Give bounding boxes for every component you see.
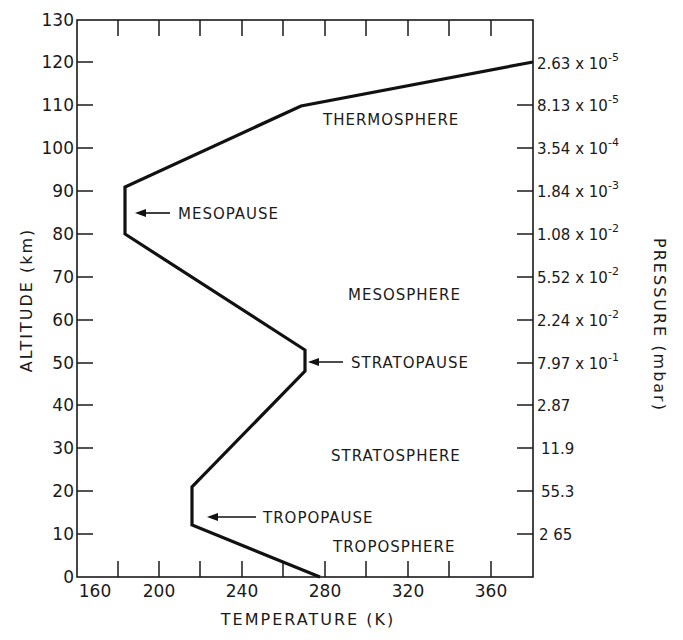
plot-frame: [77, 20, 533, 577]
y-tick-110: 110: [42, 95, 74, 115]
y-tick-80: 80: [52, 224, 74, 244]
pressure-100: 3.54 x 10-4: [537, 136, 619, 158]
pressure-30: 11.9: [541, 440, 574, 458]
mesopause-annotation: MESOPAUSE: [135, 205, 279, 223]
y-tick-20: 20: [52, 481, 74, 501]
y-tick-120: 120: [42, 52, 74, 72]
y-tick-labels: 0 10 20 30 40 50 60 70 80 90 100 110 120…: [42, 10, 74, 587]
y-tick-70: 70: [52, 267, 74, 287]
tropopause-annotation: TROPOPAUSE: [207, 509, 374, 527]
x-tick-200: 200: [143, 581, 175, 601]
arrow-left-icon: [207, 513, 218, 521]
pressure-50: 7.97 x 10-1: [537, 351, 619, 373]
pressure-80: 1.08 x 10-2: [537, 222, 619, 244]
pressure-90: 1.84 x 10-3: [537, 179, 619, 201]
y-tick-130: 130: [42, 10, 74, 30]
x-axis-title: TEMPERATURE (K): [220, 610, 395, 629]
x-tick-240: 240: [226, 581, 258, 601]
pressure-40: 2.87: [537, 397, 570, 415]
pressure-110: 8.13 x 10-5: [537, 93, 619, 115]
pressure-axis-title: PRESSURE (mbar): [650, 238, 669, 412]
y-axis-title: ALTITUDE (km): [17, 228, 36, 372]
y-tick-60: 60: [52, 310, 74, 330]
pressure-labels: 2.63 x 10-5 8.13 x 10-5 3.54 x 10-4 1.84…: [537, 51, 619, 544]
x-tick-labels: 160 200 240 280 320 360: [79, 581, 507, 601]
troposphere-label: TROPOSPHERE: [332, 538, 455, 556]
pressure-120: 2.63 x 10-5: [537, 51, 619, 73]
y-tick-10: 10: [52, 524, 74, 544]
region-labels: THERMOSPHERE MESOSPHERE STRATOSPHERE TRO…: [322, 111, 461, 556]
tropopause-label: TROPOPAUSE: [262, 509, 374, 527]
y-tick-40: 40: [52, 395, 74, 415]
x-tick-280: 280: [309, 581, 341, 601]
mesosphere-label: MESOSPHERE: [348, 286, 461, 304]
arrow-left-icon: [308, 358, 319, 366]
pressure-10: 2 65: [539, 526, 572, 544]
pressure-70: 5.52 x 10-2: [537, 265, 619, 287]
pressure-20: 55.3: [541, 483, 574, 501]
atmosphere-temperature-chart: 0 10 20 30 40 50 60 70 80 90 100 110 120…: [0, 0, 683, 640]
y-tick-30: 30: [52, 438, 74, 458]
x-tick-360: 360: [475, 581, 507, 601]
stratosphere-label: STRATOSPHERE: [331, 447, 461, 465]
stratopause-label: STRATOPAUSE: [351, 354, 469, 372]
arrow-left-icon: [135, 209, 146, 217]
thermosphere-label: THERMOSPHERE: [322, 111, 459, 129]
y-tick-90: 90: [52, 181, 74, 201]
x-tick-160: 160: [79, 581, 111, 601]
y-tick-50: 50: [52, 353, 74, 373]
x-tick-320: 320: [392, 581, 424, 601]
y-axis-ticks: [77, 62, 93, 534]
pressure-60: 2.24 x 10-2: [537, 308, 619, 330]
y-tick-0: 0: [63, 567, 74, 587]
mesopause-label: MESOPAUSE: [178, 205, 279, 223]
top-axis-ticks: [118, 20, 491, 36]
temperature-profile-line: [125, 62, 533, 577]
pressure-axis-ticks: [517, 105, 533, 534]
stratopause-annotation: STRATOPAUSE: [308, 354, 469, 372]
y-tick-100: 100: [42, 138, 74, 158]
